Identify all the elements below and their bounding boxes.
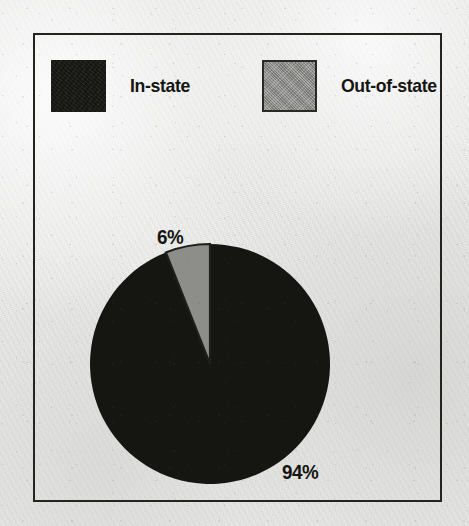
pie-plot-area: 94% 6% — [35, 145, 444, 502]
legend-label-in-state: In-state — [130, 75, 190, 97]
pie-chart-figure: In-state Out-of-state 94% 6% — [0, 0, 469, 526]
legend-item-in-state[interactable]: In-state — [51, 60, 194, 112]
chart-frame-border: In-state Out-of-state 94% 6% — [33, 33, 442, 502]
pie-graphic — [90, 224, 330, 484]
chart-legend: In-state Out-of-state — [35, 35, 444, 145]
legend-swatch-out-of-state-icon — [262, 60, 317, 112]
pie-data-label-in-state: 94% — [282, 461, 318, 484]
legend-item-out-of-state[interactable]: Out-of-state — [262, 60, 444, 112]
pie-data-label-out-of-state: 6% — [157, 226, 183, 249]
legend-swatch-in-state-icon — [51, 60, 106, 112]
legend-label-out-of-state: Out-of-state — [341, 75, 437, 97]
